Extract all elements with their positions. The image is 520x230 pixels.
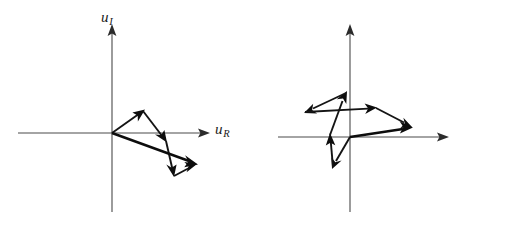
left-vector-1-shaft xyxy=(112,114,140,134)
right-vector-1-shaft xyxy=(336,137,350,161)
right-axes xyxy=(278,24,449,212)
right-resultant-shaft xyxy=(350,129,403,137)
right-phasor-diagram: uI uR xyxy=(260,0,520,230)
left-vector-chain xyxy=(112,110,198,178)
left-real-axis-label: uR xyxy=(215,122,229,137)
right-vector-3-shaft xyxy=(330,101,343,135)
right-vector-6-shaft xyxy=(376,108,404,123)
left-vector-4-shaft xyxy=(174,168,190,177)
right-vector-chain xyxy=(304,91,413,169)
left-axes xyxy=(18,24,210,212)
left-imaginary-axis-label: uI xyxy=(101,10,112,25)
left-phasor-diagram: uI uR xyxy=(0,0,260,230)
phasor-figure: uI uR xyxy=(0,0,520,230)
left-vector-2-arrowhead xyxy=(155,130,167,143)
right-vector-2-shaft xyxy=(331,142,333,167)
right-vector-5-shaft xyxy=(305,109,368,112)
left-resultant-shaft xyxy=(112,133,189,161)
